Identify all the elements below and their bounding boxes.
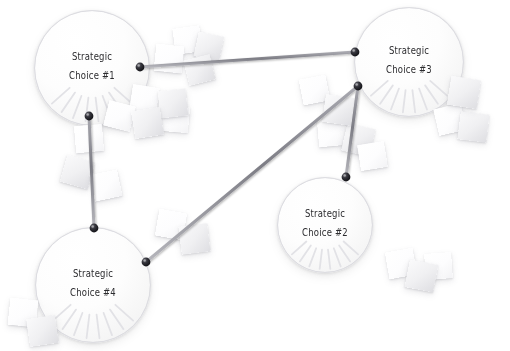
connector-edge-4-3 bbox=[146, 86, 358, 262]
pin-head-pin-node3-lower-left[interactable] bbox=[354, 82, 363, 91]
edges-group bbox=[89, 52, 358, 262]
pin-head-highlight bbox=[86, 113, 89, 116]
connector-layer bbox=[0, 0, 510, 351]
connector-edge-3-2 bbox=[346, 86, 358, 177]
pin-head-pin-node1-right[interactable] bbox=[136, 63, 145, 72]
pin-head-highlight bbox=[143, 259, 146, 262]
pin-head-highlight bbox=[137, 64, 140, 67]
pins-group bbox=[85, 48, 363, 267]
pin-head-pin-node3-upper-left[interactable] bbox=[351, 48, 360, 57]
diagram-canvas: StrategicChoice #1StrategicChoice #3Stra… bbox=[0, 0, 510, 351]
pin-head-highlight bbox=[355, 83, 358, 86]
pin-head-pin-node4-upper-right[interactable] bbox=[142, 258, 151, 267]
connector-edge-1-4 bbox=[89, 116, 94, 228]
pin-head-highlight bbox=[91, 225, 94, 228]
pin-head-pin-node2-top[interactable] bbox=[342, 173, 351, 182]
pin-head-pin-node1-bottom[interactable] bbox=[85, 112, 94, 121]
pin-head-pin-node4-top[interactable] bbox=[90, 224, 99, 233]
pin-head-highlight bbox=[352, 49, 355, 52]
pin-head-highlight bbox=[343, 174, 346, 177]
connector-edge-1-3 bbox=[140, 52, 355, 67]
